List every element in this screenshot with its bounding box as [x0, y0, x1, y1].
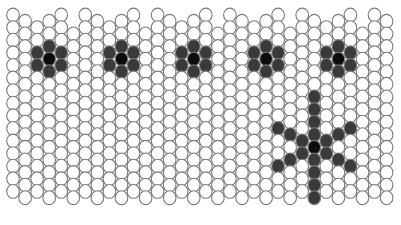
bead-dark: [308, 90, 321, 104]
bead-empty: [332, 27, 345, 41]
bead-empty: [91, 40, 104, 54]
bead-empty: [127, 21, 140, 35]
bead-empty: [79, 134, 92, 148]
bead-empty: [139, 52, 152, 66]
bead-empty: [224, 84, 237, 98]
bead-empty: [188, 191, 201, 205]
bead-empty: [188, 115, 201, 129]
bead-empty: [91, 178, 104, 192]
bead-empty: [356, 166, 369, 180]
bead-empty: [248, 121, 261, 135]
bead-empty: [55, 172, 68, 186]
bead-empty: [188, 90, 201, 104]
bead-empty: [67, 153, 80, 167]
bead-empty: [332, 166, 345, 180]
bead-empty: [224, 147, 237, 161]
bead-empty: [188, 153, 201, 167]
bead-empty: [320, 96, 333, 110]
bead-core: [43, 52, 56, 66]
bead-empty: [308, 40, 321, 54]
bead-empty: [236, 103, 249, 117]
bead-empty: [248, 185, 261, 199]
bead-empty: [380, 140, 393, 154]
bead-dark: [308, 191, 321, 205]
bead-empty: [19, 178, 32, 192]
bead-empty: [7, 8, 20, 22]
bead-empty: [272, 109, 285, 123]
bead-empty: [380, 14, 393, 28]
bead-empty: [332, 90, 345, 104]
bead-empty: [79, 147, 92, 161]
bead-empty: [79, 46, 92, 60]
bead-dark: [332, 65, 345, 79]
bead-empty: [175, 134, 188, 148]
bead-dark: [103, 59, 116, 73]
bead-empty: [67, 77, 80, 91]
bead-empty: [200, 159, 213, 173]
bead-empty: [344, 147, 357, 161]
bead-empty: [188, 27, 201, 41]
bead-empty: [115, 90, 128, 104]
bead-dark: [332, 153, 345, 167]
bead-empty: [380, 77, 393, 91]
bead-empty: [356, 27, 369, 41]
bead-empty: [212, 52, 225, 66]
bead-empty: [236, 191, 249, 205]
bead-empty: [236, 178, 249, 192]
bead-dark: [31, 46, 44, 60]
bead-empty: [332, 115, 345, 129]
bead-empty: [248, 159, 261, 173]
bead-empty: [296, 121, 309, 135]
bead-empty: [224, 21, 237, 35]
bead-empty: [344, 84, 357, 98]
bead-empty: [380, 27, 393, 41]
bead-dark: [344, 121, 357, 135]
bead-empty: [139, 90, 152, 104]
bead-empty: [236, 166, 249, 180]
bead-empty: [103, 96, 116, 110]
bead-empty: [31, 21, 44, 35]
bead-empty: [212, 115, 225, 129]
bead-empty: [296, 8, 309, 22]
bead-empty: [55, 185, 68, 199]
bead-empty: [284, 166, 297, 180]
bead-empty: [19, 90, 32, 104]
bead-empty: [296, 46, 309, 60]
bead-empty: [19, 27, 32, 41]
bead-empty: [79, 21, 92, 35]
bead-empty: [272, 33, 285, 47]
bead-empty: [200, 96, 213, 110]
bead-empty: [19, 140, 32, 154]
bead-dark: [260, 65, 273, 79]
bead-empty: [368, 96, 381, 110]
bead-empty: [139, 178, 152, 192]
bead-empty: [19, 103, 32, 117]
bead-empty: [127, 147, 140, 161]
bead-empty: [31, 84, 44, 98]
bead-empty: [67, 27, 80, 41]
bead-empty: [200, 71, 213, 85]
bead-empty: [200, 172, 213, 186]
bead-empty: [332, 191, 345, 205]
bead-empty: [224, 172, 237, 186]
bead-empty: [103, 159, 116, 173]
bead-empty: [284, 103, 297, 117]
bead-empty: [31, 96, 44, 110]
bead-empty: [284, 40, 297, 54]
bead-empty: [200, 8, 213, 22]
bead-empty: [236, 140, 249, 154]
bead-empty: [320, 172, 333, 186]
bead-empty: [55, 121, 68, 135]
bead-empty: [151, 46, 164, 60]
bead-empty: [67, 140, 80, 154]
bead-empty: [91, 166, 104, 180]
bead-empty: [260, 153, 273, 167]
bead-empty: [43, 115, 56, 129]
bead-empty: [260, 90, 273, 104]
bead-dark: [115, 40, 128, 54]
bead-empty: [188, 77, 201, 91]
bead-empty: [79, 172, 92, 186]
bead-empty: [43, 178, 56, 192]
bead-empty: [7, 185, 20, 199]
bead-empty: [332, 103, 345, 117]
